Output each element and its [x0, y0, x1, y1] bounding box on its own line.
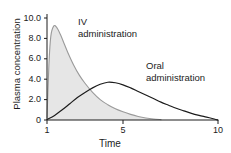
annotation-iv-administration: IVadministration	[78, 16, 137, 40]
y-axis-tick-label: 10.0	[0, 14, 41, 23]
annotation-oral-administration-line2: administration	[146, 72, 205, 84]
x-axis-tick-label: 5	[109, 126, 137, 135]
y-axis-tick-label: 2.0	[0, 95, 41, 104]
y-axis-title: Plasma concentration	[12, 6, 22, 122]
y-axis-tick-label: 4.0	[0, 75, 41, 84]
x-axis-ticks	[47, 120, 218, 124]
y-axis-tick-label: 0	[0, 116, 41, 125]
x-axis-tick-label: 1	[33, 126, 61, 135]
x-axis-title: Time	[78, 139, 142, 149]
annotation-oral-administration-line1: Oral	[146, 60, 205, 72]
annotation-iv-administration-line1: IV	[78, 16, 137, 28]
plasma-concentration-chart: Plasma concentration Time 02.04.06.08.01…	[0, 0, 231, 153]
x-axis-tick-label: 10	[204, 126, 231, 135]
y-axis-tick-label: 6.0	[0, 54, 41, 63]
y-axis-tick-label: 8.0	[0, 34, 41, 43]
annotation-iv-administration-line2: administration	[78, 28, 137, 40]
annotation-oral-administration: Oraladministration	[146, 60, 205, 84]
